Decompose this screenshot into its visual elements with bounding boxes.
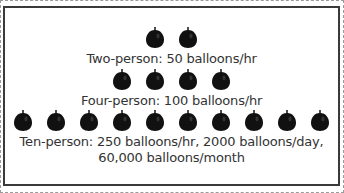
diagram-frame: Two-person: 50 balloons/hr Four-person: … (3, 6, 340, 186)
balloon-icon (178, 69, 198, 91)
balloon-icon (310, 110, 330, 132)
balloon-icon (145, 110, 165, 132)
balloon-icon (178, 110, 198, 132)
balloon-icon (79, 110, 99, 132)
balloon-icon (13, 110, 33, 132)
label-two-person: Two-person: 50 balloons/hr (5, 51, 338, 67)
balloon-icon (277, 110, 297, 132)
label-ten-person-line1: Ten-person: 250 balloons/hr, 2000 balloo… (5, 134, 338, 150)
label-ten-person-line2: 60,000 balloons/month (5, 150, 338, 166)
balloon-row-two-person (5, 27, 338, 49)
balloon-icon (46, 110, 66, 132)
balloon-icon (211, 69, 231, 91)
balloon-icon (112, 110, 132, 132)
balloon-row-four-person (5, 69, 338, 91)
balloon-icon (178, 27, 198, 49)
balloon-row-ten-person (5, 110, 338, 132)
balloon-icon (244, 110, 264, 132)
balloon-icon (145, 27, 165, 49)
balloon-icon (145, 69, 165, 91)
label-four-person: Four-person: 100 balloons/hr (5, 93, 338, 109)
balloon-icon (112, 69, 132, 91)
balloon-icon (211, 110, 231, 132)
